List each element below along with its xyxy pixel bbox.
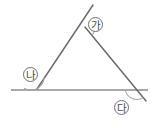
angle-label-da: 다 <box>114 100 129 115</box>
geometry-canvas <box>0 0 156 126</box>
angle-label-ga: 가 <box>88 17 103 32</box>
geometry-figure: 가 나 다 <box>0 0 156 126</box>
angle-label-na: 나 <box>23 67 38 82</box>
triangle-left-side-ray <box>37 5 93 89</box>
